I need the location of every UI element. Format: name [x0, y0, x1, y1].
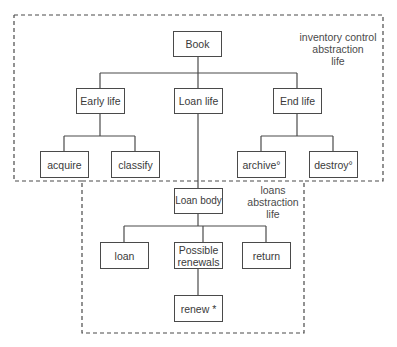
node-loan[interactable]: loan [100, 242, 149, 269]
node-acquire[interactable]: acquire [40, 151, 89, 178]
node-loan-life[interactable]: Loan life [174, 88, 223, 114]
loans-label-line-1: loans [244, 184, 302, 196]
loans-label-line-3: life [244, 208, 302, 220]
node-possible-renewals[interactable]: Possible renewals [174, 242, 223, 269]
node-renew[interactable]: renew * [174, 295, 223, 322]
node-book[interactable]: Book [173, 31, 222, 57]
node-end-life[interactable]: End life [273, 88, 322, 114]
node-destroy[interactable]: destroy° [309, 151, 358, 178]
inventory-label-line-3: life [296, 55, 380, 67]
node-archive[interactable]: archive° [237, 151, 286, 178]
node-loan-body[interactable]: Loan body [174, 188, 223, 214]
loans-region-label: loans abstraction life [244, 184, 302, 220]
node-return[interactable]: return [242, 242, 291, 269]
inventory-region-label: inventory control abstraction life [296, 31, 380, 67]
node-early-life[interactable]: Early life [76, 88, 125, 114]
inventory-label-line-2: abstraction [296, 43, 380, 55]
loans-label-line-2: abstraction [244, 196, 302, 208]
node-classify[interactable]: classify [111, 151, 160, 178]
inventory-label-line-1: inventory control [296, 31, 380, 43]
